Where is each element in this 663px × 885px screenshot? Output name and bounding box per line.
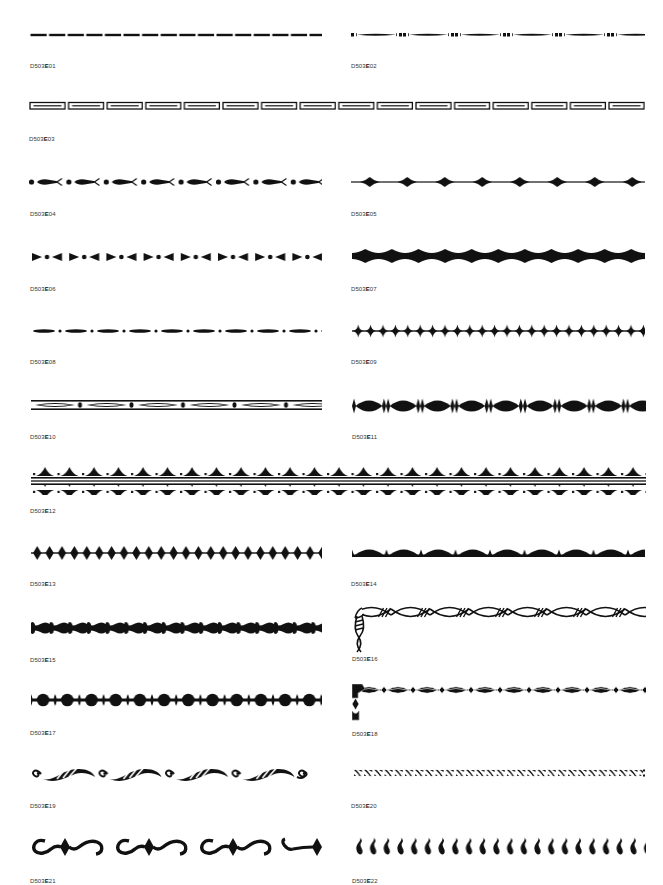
border-item-e08[interactable]: D503E08: [32, 326, 322, 371]
border-item-e06[interactable]: D503E06: [31, 251, 322, 296]
star-diamonds-border-swatch: [352, 323, 645, 339]
border-code-label: D503E07: [351, 286, 377, 292]
twisted-rope-corner-border-swatch: [352, 604, 646, 654]
border-code-label: D503E02: [351, 63, 377, 69]
scallop-arches-border-swatch: [352, 546, 645, 558]
scroll-diamond-border-swatch: [31, 835, 327, 859]
border-code-label: D503E09: [351, 359, 377, 365]
double-crest-border-swatch: [31, 465, 646, 495]
border-item-e12[interactable]: D503E12: [31, 465, 646, 517]
border-code-label: D503E01: [30, 63, 56, 69]
ovals-dots-border-swatch: [32, 327, 322, 335]
border-code-label: D503E12: [30, 508, 56, 514]
outlined-rectangles-border-swatch: [29, 101, 645, 111]
border-code-label: D503E08: [30, 359, 56, 365]
border-item-e04[interactable]: D503E04: [28, 175, 322, 220]
border-code-label: D503E21: [30, 878, 56, 884]
tapered-bars-border-swatch: [351, 30, 645, 40]
border-item-e13[interactable]: D503E13: [31, 545, 322, 590]
border-code-label: D503E16: [352, 656, 378, 662]
lens-chain-border-swatch: [352, 397, 646, 415]
border-item-e21[interactable]: D503E21: [31, 835, 327, 885]
border-item-e10[interactable]: D503E10: [31, 399, 322, 444]
diamonds-on-line-border-swatch: [351, 175, 645, 189]
border-item-e15[interactable]: D503E15: [31, 620, 322, 665]
border-code-label: D503E19: [30, 803, 56, 809]
border-code-label: D503E18: [352, 731, 378, 737]
border-item-e01[interactable]: D503E01: [30, 28, 322, 73]
pearl-chain-border-swatch: [31, 691, 322, 709]
border-code-label: D503E17: [30, 730, 56, 736]
bold-diamond-chain-border-swatch: [352, 248, 645, 264]
diamond-row-border-swatch: [31, 545, 322, 561]
border-code-label: D503E13: [30, 581, 56, 587]
dashes-border-swatch: [30, 31, 322, 39]
diagonal-links-border-swatch: [353, 768, 646, 778]
jeweled-oval-corner-border-swatch: [352, 684, 646, 724]
border-item-e19[interactable]: D503E19: [31, 764, 327, 814]
border-item-e02[interactable]: D503E02: [351, 28, 645, 73]
border-code-label: D503E15: [30, 657, 56, 663]
border-item-e07[interactable]: D503E07: [352, 248, 645, 296]
border-code-label: D503E10: [30, 434, 56, 440]
banded-ovals-border-swatch: [31, 399, 322, 411]
flame-drops-border-swatch: [353, 836, 646, 858]
border-code-label: D503E06: [30, 286, 56, 292]
border-code-label: D503E14: [351, 581, 377, 587]
border-item-e03[interactable]: D503E03: [29, 100, 645, 145]
border-item-e18[interactable]: D503E18: [352, 684, 646, 739]
border-code-label: D503E05: [351, 211, 377, 217]
border-code-label: D503E22: [352, 878, 378, 884]
border-item-e14[interactable]: D503E14: [352, 546, 645, 590]
border-item-e16[interactable]: D503E16: [352, 604, 646, 665]
border-item-e17[interactable]: D503E17: [31, 691, 322, 739]
border-item-e20[interactable]: D503E20: [353, 768, 646, 814]
fish-dots-border-swatch: [28, 176, 322, 188]
border-item-e22[interactable]: D503E22: [353, 836, 646, 885]
border-item-e05[interactable]: D503E05: [351, 175, 645, 220]
scroll-waves-border-swatch: [31, 764, 327, 784]
border-code-label: D503E20: [351, 803, 377, 809]
arrows-dots-border-swatch: [31, 252, 322, 262]
border-code-label: D503E03: [29, 136, 55, 142]
border-item-e09[interactable]: D503E09: [352, 323, 645, 371]
border-code-label: D503E04: [30, 211, 56, 217]
border-code-label: D503E11: [352, 434, 377, 440]
bead-chain-border-swatch: [31, 620, 322, 636]
border-item-e11[interactable]: D503E11: [352, 397, 646, 445]
